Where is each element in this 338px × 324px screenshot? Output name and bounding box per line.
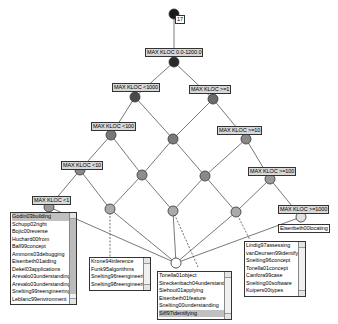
- list-item[interactable]: Snelting98reengineering: [91, 281, 143, 289]
- scroll-down-icon[interactable]: [225, 313, 231, 319]
- list-item[interactable]: Godin03building: [12, 213, 69, 221]
- lattice-node-n1[interactable]: [130, 92, 140, 102]
- lattice-node-m1[interactable]: [168, 134, 178, 144]
- list-item[interactable]: Snelting00software: [246, 280, 298, 288]
- scrollbar[interactable]: [224, 272, 231, 319]
- list-item[interactable]: Funk95algorithms: [91, 266, 143, 274]
- scrollbar[interactable]: [298, 242, 305, 296]
- list-item[interactable]: Tonella01object: [159, 272, 224, 280]
- label-max-kloc-ge-1000: MAX KLOC >=1000: [278, 205, 329, 214]
- lattice-node-n4[interactable]: [241, 134, 251, 144]
- label-max-kloc-ge-1: MAX KLOC >=1: [189, 85, 231, 94]
- list-item[interactable]: Snelting00understanding: [159, 302, 224, 310]
- list-item[interactable]: Leblanc99environment: [12, 296, 69, 304]
- scroll-up-icon[interactable]: [225, 272, 231, 278]
- list-item[interactable]: Ball99concept: [12, 243, 69, 251]
- label-max-kloc-range: MAX KLOC 0.0-1200.0: [145, 48, 203, 57]
- list-item[interactable]: Kuipers00types: [246, 287, 298, 295]
- extent-list-lt-1[interactable]: Godin03building Schupp02right Bojic00rev…: [10, 212, 77, 305]
- label-max-kloc-ge-100: MAX KLOC >=100: [248, 167, 296, 176]
- label-max-kloc-lt-1: MAX KLOC <1: [32, 196, 71, 205]
- lattice-node-m2[interactable]: [137, 170, 147, 180]
- label-max-kloc-ge-10: MAX KLOC >=10: [217, 126, 262, 135]
- label-max-kloc-lt-10: MAX KLOC <10: [61, 161, 103, 170]
- extent-list-b1[interactable]: Krone94inference Funk95algorithms Snelti…: [89, 257, 151, 291]
- lattice-node-b2[interactable]: [168, 206, 178, 216]
- list-item[interactable]: Krone94inference: [91, 258, 143, 266]
- list-item[interactable]: Eisenbeth01feature: [159, 295, 224, 303]
- label-max-kloc-lt-1000: MAX KLOC <1000: [112, 83, 160, 92]
- list-item[interactable]: Eisenbeth01aiding: [12, 258, 69, 266]
- list-item[interactable]: Bojic00reverse: [12, 228, 69, 236]
- list-item[interactable]: Ammons03debugging: [12, 251, 69, 259]
- scroll-down-icon[interactable]: [144, 284, 150, 290]
- list-item[interactable]: Streckenbach04understanding: [159, 280, 224, 288]
- scroll-up-icon[interactable]: [144, 258, 150, 264]
- lattice-node-n2[interactable]: [208, 94, 218, 104]
- list-item[interactable]: Canfora99case: [246, 272, 298, 280]
- scrollbar[interactable]: [69, 213, 76, 304]
- extent-label-n8: Eisenbeth00locating: [278, 224, 330, 233]
- extent-list-bottom[interactable]: Tonella01object Streckenbach04understand…: [157, 271, 232, 320]
- list-item[interactable]: Schupp02right: [12, 221, 69, 229]
- scrollbar[interactable]: [143, 258, 150, 290]
- list-item[interactable]: Lindig97assessing: [246, 242, 298, 250]
- scroll-up-icon[interactable]: [299, 242, 305, 248]
- label-max-kloc-lt-100: MAX KLOC <100: [91, 122, 136, 131]
- lattice-node-b3[interactable]: [231, 207, 241, 217]
- scroll-down-icon[interactable]: [299, 290, 305, 296]
- lattice-node-n0[interactable]: [169, 57, 179, 67]
- list-item[interactable]: Snelting96reengineering: [91, 273, 143, 281]
- list-item[interactable]: Huchard00from: [12, 236, 69, 244]
- extent-list-b3[interactable]: Lindig97assessing vanDeursen99identifyin…: [244, 241, 306, 297]
- list-item[interactable]: Snelting96concept: [246, 257, 298, 265]
- top-count-label: 17: [175, 15, 185, 24]
- scroll-down-icon[interactable]: [70, 298, 76, 304]
- lattice-node-n3[interactable]: [106, 130, 116, 140]
- lattice-node-b1[interactable]: [105, 204, 115, 214]
- lattice-node-m3[interactable]: [200, 171, 210, 181]
- list-item[interactable]: Siff97identifying: [159, 310, 224, 318]
- list-item[interactable]: vanDeursen99identifying: [246, 250, 298, 258]
- list-item[interactable]: Arevalo03understanding-s: [12, 273, 69, 281]
- list-item[interactable]: Arevalo03understanding-a: [12, 281, 69, 289]
- list-item[interactable]: Snelting99reengineering: [12, 288, 69, 296]
- list-item[interactable]: Dekel03applications: [12, 266, 69, 274]
- list-item[interactable]: Tonella01concept: [246, 265, 298, 273]
- scroll-thumb[interactable]: [70, 219, 76, 294]
- lattice-node-bottom[interactable]: [171, 258, 181, 268]
- list-item[interactable]: Siehout01applying: [159, 287, 224, 295]
